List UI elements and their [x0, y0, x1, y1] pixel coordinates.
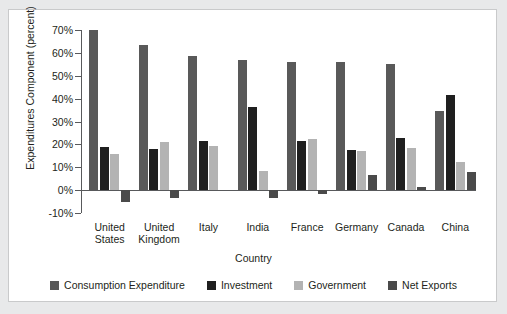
legend-label: Investment	[221, 279, 272, 291]
bar	[160, 142, 169, 190]
y-axis-tick-labels: 70%60%50%40%30%20%10%0%-10%	[9, 30, 73, 213]
bar	[368, 175, 377, 190]
bar-group	[139, 30, 180, 213]
y-axis-tick-mark	[75, 30, 81, 31]
bar	[139, 45, 148, 190]
x-axis-title: Country	[9, 252, 498, 264]
y-axis-tick-mark	[75, 167, 81, 168]
y-axis-tick-label: 40%	[52, 94, 73, 104]
bar	[110, 154, 119, 190]
bar	[396, 138, 405, 191]
bar	[170, 190, 179, 198]
bar-group	[188, 30, 229, 213]
y-axis-tick-label: 70%	[52, 25, 73, 35]
bar	[336, 62, 345, 190]
bar	[149, 149, 158, 190]
legend-label: Consumption Expenditure	[64, 279, 185, 291]
legend-item[interactable]: Investment	[207, 279, 272, 291]
legend-label: Net Exports	[402, 279, 457, 291]
y-axis-tick-mark	[75, 122, 81, 123]
chart-legend: Consumption ExpenditureInvestmentGovernm…	[9, 279, 498, 291]
bar	[89, 30, 98, 190]
legend-item[interactable]: Net Exports	[388, 279, 457, 291]
y-axis-tick-label: 60%	[52, 48, 73, 58]
y-axis-tick-label: 30%	[52, 117, 73, 127]
bar-group	[238, 30, 279, 213]
bar	[417, 187, 426, 190]
bar	[199, 141, 208, 190]
y-axis-tick-mark	[75, 76, 81, 77]
legend-swatch-icon	[50, 281, 59, 290]
legend-item[interactable]: Consumption Expenditure	[50, 279, 185, 291]
y-axis-tick-label: 10%	[52, 162, 73, 172]
legend-swatch-icon	[294, 281, 303, 290]
legend-swatch-icon	[388, 281, 397, 290]
legend-label: Government	[308, 279, 366, 291]
bar	[318, 190, 327, 193]
bar	[456, 162, 465, 191]
y-axis-tick-label: -10%	[48, 208, 73, 218]
bar	[357, 151, 366, 191]
x-axis-tick-label: China	[415, 221, 495, 233]
bar	[121, 190, 130, 201]
x-axis-tick-label-line: China	[415, 221, 495, 233]
y-axis-tick-label: 20%	[52, 139, 73, 149]
bar-group	[89, 30, 130, 213]
bar-group	[435, 30, 476, 213]
bar	[297, 141, 306, 190]
bar	[100, 147, 109, 190]
bar	[238, 60, 247, 190]
bar	[386, 64, 395, 190]
y-axis-tick-mark	[75, 213, 81, 214]
bar	[446, 95, 455, 190]
bar-group	[287, 30, 328, 213]
bar	[248, 107, 257, 190]
y-axis-tick-label: 0%	[58, 185, 73, 195]
bar	[209, 146, 218, 190]
bar	[287, 62, 296, 190]
legend-item[interactable]: Government	[294, 279, 366, 291]
bar-group	[336, 30, 377, 213]
y-axis-tick-mark	[75, 144, 81, 145]
bar	[407, 148, 416, 190]
bar	[269, 190, 278, 198]
legend-swatch-icon	[207, 281, 216, 290]
y-axis-tick-mark	[75, 99, 81, 100]
y-axis-tick-mark	[75, 190, 81, 191]
y-axis-tick-label: 50%	[52, 71, 73, 81]
plot-area	[81, 30, 476, 213]
y-axis-line	[81, 30, 82, 213]
bar-group	[386, 30, 427, 213]
bar	[467, 172, 476, 190]
bar	[435, 111, 444, 190]
bar	[259, 171, 268, 190]
bar	[308, 139, 317, 190]
chart-figure: Expenditures Component (percent) 70%60%5…	[8, 9, 497, 302]
bar	[188, 56, 197, 190]
y-axis-tick-mark	[75, 53, 81, 54]
x-axis-tick-label-line: Kingdom	[119, 233, 199, 245]
bar	[347, 150, 356, 190]
